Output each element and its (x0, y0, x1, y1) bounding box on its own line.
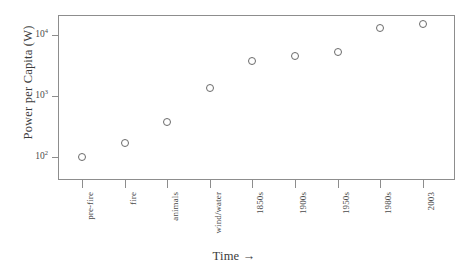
x-tick-label: 1900s (299, 192, 308, 214)
x-axis-title: Time → (0, 249, 468, 264)
x-tick-mark (210, 180, 211, 188)
x-tick-label: pre-fire (86, 192, 95, 220)
y-tick-label: 102 (4, 152, 48, 162)
data-points-layer (58, 15, 455, 180)
x-tick-label: wind/water (214, 192, 223, 234)
x-tick-mark (295, 180, 296, 188)
x-tick-mark (380, 180, 381, 188)
data-point (248, 57, 256, 65)
data-point (376, 24, 384, 32)
y-tick-label: 103 (4, 91, 48, 101)
y-axis-title: Power per Capita (W) (21, 0, 36, 173)
data-point (334, 48, 342, 56)
x-tick-label: 1850s (256, 192, 265, 214)
chart-figure: Power per Capita (W) 102103104 pre-firef… (0, 0, 468, 276)
x-tick-mark (338, 180, 339, 188)
x-tick-mark (167, 180, 168, 188)
data-point (121, 139, 129, 147)
y-tick-label: 104 (4, 30, 48, 40)
data-point (419, 20, 427, 28)
data-point (163, 118, 171, 126)
x-tick-mark (423, 180, 424, 188)
x-tick-mark (252, 180, 253, 188)
data-point (291, 52, 299, 60)
data-point (78, 153, 86, 161)
x-tick-mark (125, 180, 126, 188)
x-tick-mark (82, 180, 83, 188)
x-tick-label: 1950s (342, 192, 351, 214)
x-tick-label: 2003 (427, 192, 436, 210)
data-point (206, 84, 214, 92)
x-tick-label: fire (129, 192, 138, 205)
x-tick-label: animals (171, 192, 180, 221)
x-tick-label: 1980s (384, 192, 393, 214)
